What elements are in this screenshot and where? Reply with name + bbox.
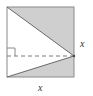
apex-point bbox=[73, 55, 75, 57]
bottom-side-label: x bbox=[37, 82, 43, 93]
geometry-diagram: x x bbox=[0, 0, 93, 96]
right-angle-marker bbox=[7, 48, 15, 56]
right-side-label: x bbox=[79, 38, 85, 49]
